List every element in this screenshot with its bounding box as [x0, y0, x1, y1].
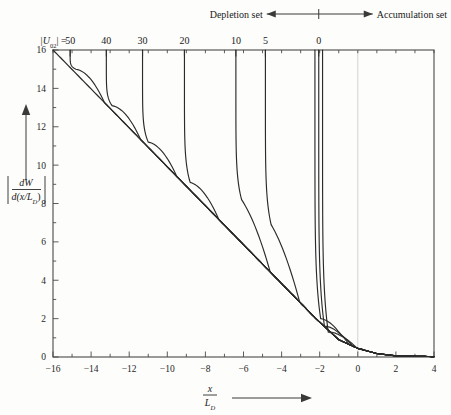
y-tick-label: 10 [37, 161, 47, 171]
x-tick-label: −16 [46, 364, 61, 374]
x-tick-label: 4 [432, 364, 437, 374]
y-axis-label: dWd(x/LD) [8, 176, 45, 205]
chart-svg: −16−14−12−10−8−6−4−202402468101214165040… [0, 0, 451, 415]
arrow-right-icon [364, 10, 373, 17]
svg-text:x: x [207, 383, 213, 394]
y-tick-label: 4 [41, 276, 46, 286]
series-curve-50 [70, 50, 434, 357]
series-curve-20 [184, 50, 434, 357]
top-axis-tick-label: 30 [138, 35, 148, 46]
svg-text:dW: dW [19, 177, 34, 188]
top-axis-tick-label: 0 [316, 35, 321, 46]
top-axis-tick-label: 10 [231, 35, 241, 46]
y-tick-label: 16 [37, 45, 47, 55]
depletion-set-label: Depletion set [210, 9, 263, 20]
series-curve-40 [106, 50, 434, 357]
top-axis-tick-label: 5 [263, 35, 268, 46]
arrow-right-icon [301, 394, 312, 402]
y-tick-label: 8 [41, 199, 46, 209]
x-tick-label: −12 [122, 364, 137, 374]
arrow-left-icon [267, 10, 276, 17]
series-curve-0a [315, 50, 433, 357]
y-tick-label: 0 [41, 352, 46, 362]
x-tick-label: 2 [394, 364, 399, 374]
figure-container: −16−14−12−10−8−6−4−202402468101214165040… [0, 0, 451, 415]
x-tick-label: −2 [315, 364, 325, 374]
x-tick-label: −4 [277, 364, 287, 374]
x-tick-label: −14 [84, 364, 99, 374]
arrow-up-icon [22, 104, 30, 115]
x-tick-label: −8 [200, 364, 210, 374]
series-curve-30 [143, 50, 434, 357]
accumulation-set-label: Accumulation set [377, 9, 447, 20]
svg-text:LD: LD [204, 397, 216, 411]
y-tick-label: 2 [41, 314, 46, 324]
y-tick-label: 12 [37, 122, 47, 132]
top-axis-tick-label: 40 [101, 35, 111, 46]
x-axis-label: xLD [203, 383, 312, 411]
top-axis-tick-label: 50 [65, 35, 75, 46]
x-tick-label: 0 [355, 364, 360, 374]
series-curve-0b [319, 50, 433, 357]
x-tick-label: −10 [160, 364, 175, 374]
x-tick-label: −6 [238, 364, 248, 374]
y-tick-label: 6 [41, 237, 46, 247]
y-tick-label: 14 [37, 84, 47, 94]
svg-text:d(x/LD): d(x/LD) [11, 191, 40, 205]
top-axis-tick-label: 20 [179, 35, 189, 46]
series-curve-0c [323, 50, 433, 357]
series-curve-5 [265, 50, 433, 357]
